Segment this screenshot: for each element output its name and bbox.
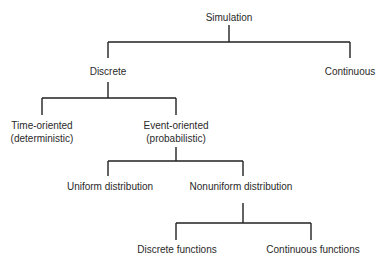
node-continuous-functions: Continuous functions [266, 243, 359, 256]
node-time-oriented-line1: Time-oriented [11, 119, 74, 132]
node-nonuniform-distribution: Nonuniform distribution [190, 180, 293, 193]
node-discrete: Discrete [90, 65, 127, 78]
node-simulation: Simulation [206, 11, 253, 24]
node-event-oriented-line2: (probabilistic) [143, 132, 208, 145]
node-time-oriented: Time-oriented (deterministic) [11, 119, 74, 145]
node-discrete-functions: Discrete functions [137, 243, 216, 256]
node-event-oriented-line1: Event-oriented [143, 119, 208, 132]
node-continuous: Continuous [325, 65, 376, 78]
node-uniform-distribution: Uniform distribution [67, 180, 153, 193]
node-event-oriented: Event-oriented (probabilistic) [143, 119, 208, 145]
node-time-oriented-line2: (deterministic) [11, 132, 74, 145]
simulation-tree-diagram: Simulation Discrete Continuous Time-orie… [0, 0, 383, 265]
